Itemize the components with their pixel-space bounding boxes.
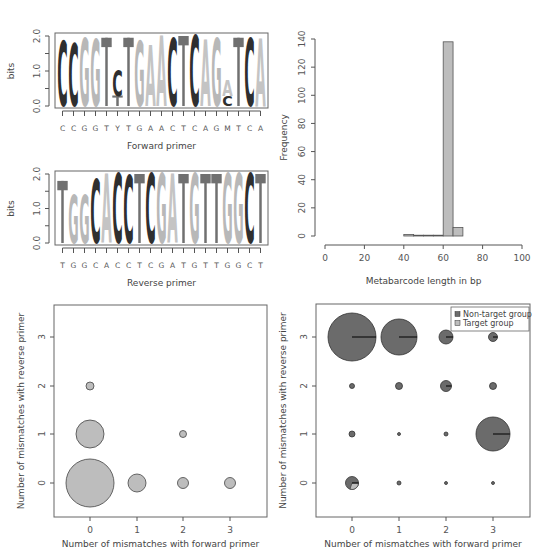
histogram-bar bbox=[433, 235, 443, 236]
y-tick-label: 100 bbox=[297, 86, 307, 103]
x-tick-label: 0 bbox=[322, 253, 328, 263]
reverse-primer-logo: 0.01.02.0bitsTGGGGCCAACCCCTCCGGAATGGTTGG… bbox=[6, 155, 268, 288]
consensus-base: G bbox=[93, 124, 99, 133]
x-axis-label: Metabarcode length in bp bbox=[366, 276, 482, 286]
x-tick-label: 3 bbox=[227, 525, 233, 535]
consensus-base: A bbox=[203, 124, 209, 133]
consensus-base: T bbox=[59, 261, 65, 270]
consensus-base: T bbox=[202, 261, 208, 270]
x-tick-label: 3 bbox=[490, 525, 496, 535]
y-tick-label: 1.0 bbox=[32, 64, 42, 79]
pie-bubble bbox=[398, 433, 401, 436]
consensus-base: C bbox=[247, 124, 252, 133]
y-tick-label: 40 bbox=[297, 174, 307, 186]
figure-canvas: 0.01.02.0bitsCCCCGGGGTCYTGGAAAACCTCCAAGG… bbox=[0, 0, 553, 550]
consensus-base: T bbox=[257, 261, 263, 270]
logo-letter-c: C bbox=[112, 63, 122, 104]
consensus-base: T bbox=[103, 124, 109, 133]
legend-label: Non-target group bbox=[463, 310, 532, 319]
x-tick-label: 40 bbox=[398, 253, 410, 263]
x-tick-label: 1 bbox=[396, 525, 402, 535]
bubble-point bbox=[178, 478, 189, 489]
x-tick-label: 20 bbox=[359, 253, 371, 263]
consensus-base: C bbox=[93, 261, 98, 270]
forward-primer-logo: 0.01.02.0bitsCCCCGGGGTCYTGGAAAACCTCCAAGG… bbox=[6, 16, 268, 151]
x-axis-label: Forward primer bbox=[127, 141, 196, 151]
consensus-base: G bbox=[214, 124, 220, 133]
histogram-bar bbox=[414, 235, 424, 236]
consensus-base: A bbox=[258, 124, 264, 133]
consensus-base: G bbox=[225, 261, 231, 270]
y-tick-label: 2 bbox=[299, 383, 309, 389]
bubble-point bbox=[86, 382, 94, 390]
x-tick-label: 0 bbox=[87, 525, 93, 535]
y-tick-label: 1 bbox=[299, 431, 309, 437]
legend-label: Target group bbox=[462, 319, 514, 328]
consensus-base: G bbox=[159, 261, 165, 270]
bubble-point bbox=[76, 420, 104, 448]
histogram-bar bbox=[404, 235, 414, 237]
y-tick-label: 3 bbox=[37, 334, 47, 340]
y-tick-label: 1 bbox=[37, 431, 47, 437]
pie-bubble bbox=[490, 383, 497, 390]
y-tick-label: 2.0 bbox=[32, 29, 42, 44]
consensus-base: G bbox=[236, 261, 242, 270]
y-tick-label: 0.0 bbox=[32, 236, 42, 251]
x-tick-label: 100 bbox=[513, 253, 530, 263]
consensus-base: C bbox=[60, 124, 65, 133]
consensus-base: A bbox=[148, 124, 154, 133]
consensus-base: G bbox=[82, 124, 88, 133]
bubble-point bbox=[128, 474, 146, 492]
histogram-bar bbox=[424, 235, 434, 236]
y-tick-label: 1.0 bbox=[32, 201, 42, 216]
consensus-base: T bbox=[180, 124, 186, 133]
y-tick-label: 2 bbox=[37, 383, 47, 389]
x-tick-label: 1 bbox=[134, 525, 140, 535]
length-histogram: 020406080100120140Frequency020406080100M… bbox=[279, 30, 531, 286]
y-tick-label: 20 bbox=[297, 202, 307, 214]
y-tick-label: 0 bbox=[297, 233, 307, 239]
legend-swatch bbox=[455, 321, 460, 326]
x-tick-label: 80 bbox=[477, 253, 489, 263]
consensus-base: C bbox=[247, 261, 252, 270]
consensus-base: C bbox=[192, 124, 197, 133]
consensus-base: G bbox=[71, 261, 77, 270]
y-tick-label: 60 bbox=[297, 146, 307, 158]
consensus-base: G bbox=[82, 261, 88, 270]
group-mismatch-pie-plot: 01230123Number of mismatches with forwar… bbox=[278, 304, 532, 549]
y-tick-label: 0 bbox=[299, 480, 309, 486]
pie-bubble bbox=[396, 383, 403, 390]
pie-bubble bbox=[492, 482, 495, 485]
histogram-bar bbox=[453, 228, 463, 236]
x-axis-label: Number of mismatches with forward primer bbox=[324, 539, 522, 549]
y-axis-label: Frequency bbox=[279, 114, 289, 161]
consensus-base: C bbox=[115, 261, 120, 270]
consensus-base: C bbox=[148, 261, 153, 270]
x-axis-label: Number of mismatches with forward primer bbox=[62, 539, 260, 549]
consensus-base: T bbox=[235, 124, 241, 133]
consensus-base: T bbox=[125, 124, 131, 133]
consensus-base: T bbox=[213, 261, 219, 270]
pie-bubble bbox=[444, 432, 448, 436]
x-tick-label: 60 bbox=[437, 253, 449, 263]
consensus-base: C bbox=[71, 124, 76, 133]
consensus-base: C bbox=[126, 261, 131, 270]
consensus-base: C bbox=[170, 124, 175, 133]
histogram-bar bbox=[443, 42, 453, 236]
pie-bubble bbox=[350, 384, 355, 389]
consensus-base: A bbox=[104, 261, 110, 270]
y-axis-label: Number of mismatches with reverse primer bbox=[278, 312, 288, 509]
consensus-base: G bbox=[192, 261, 198, 270]
logo-letter-a: A bbox=[222, 75, 233, 100]
legend-swatch bbox=[455, 312, 460, 317]
y-tick-label: 140 bbox=[297, 30, 307, 47]
logo-letter-g: G bbox=[68, 182, 78, 258]
consensus-base: A bbox=[159, 124, 165, 133]
y-axis-label: Number of mismatches with reverse primer bbox=[16, 312, 26, 509]
pie-bubble bbox=[349, 431, 355, 437]
bubble-point bbox=[66, 459, 114, 507]
consensus-base: A bbox=[170, 261, 176, 270]
y-tick-label: 2.0 bbox=[32, 167, 42, 182]
consensus-base: T bbox=[180, 261, 186, 270]
y-tick-label: 80 bbox=[297, 117, 307, 129]
